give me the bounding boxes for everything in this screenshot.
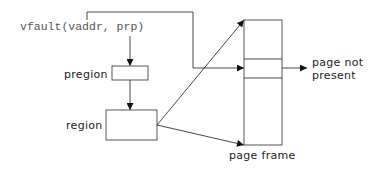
page-frame-box [244, 20, 282, 145]
page-not-present-line1: page not [312, 56, 364, 69]
region-label: region [66, 119, 103, 132]
page-not-present-line2: present [312, 69, 356, 82]
pregion-label: pregion [64, 68, 108, 81]
region-box [106, 110, 157, 140]
vfault-diagram: vfault(vaddr, prp) pregion region page f… [0, 0, 376, 170]
vfault-call-label: vfault(vaddr, prp) [20, 20, 144, 33]
diagram-canvas: vfault(vaddr, prp) pregion region page f… [0, 0, 376, 170]
pregion-box [112, 66, 148, 80]
region-to-page-frame-top-arrow [157, 20, 244, 125]
page-frame-label: page frame [229, 149, 296, 162]
region-to-page-frame-bottom-arrow [157, 125, 244, 145]
